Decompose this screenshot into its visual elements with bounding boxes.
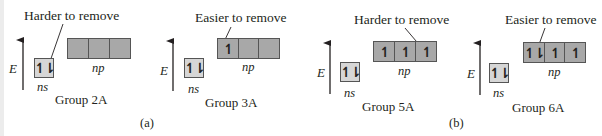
np-label-3a: np (242, 61, 255, 74)
energy-axis-label: E (9, 62, 17, 75)
callout-text-5a: Harder to remove (354, 13, 449, 27)
callout-text-6a: Easier to remove (505, 13, 596, 27)
panel-label-a: (a) (140, 117, 154, 130)
np-cell: ↿ (218, 39, 239, 58)
ns-label-3a: ns (188, 83, 199, 96)
np-cell (110, 39, 130, 58)
np-cell: ↿ (565, 43, 585, 62)
ns-orbital-6a: ↿⇂ (489, 63, 509, 83)
panel-label-b: (b) (449, 117, 464, 130)
ns-orbital-3a: ↿⇂ (184, 58, 204, 78)
ns-label-2a: ns (37, 81, 48, 94)
np-orbital-3a: ↿ (217, 38, 280, 59)
np-cell (239, 39, 260, 58)
group-label-2a: Group 2A (55, 93, 107, 106)
np-label-6a: np (548, 66, 561, 79)
ns-orbital-2a: ↿⇂ (34, 58, 54, 78)
np-orbital-6a: ↿⇂ ↿ ↿ (523, 42, 586, 63)
np-cell: ↿ (416, 42, 436, 61)
np-cell: ↿ (545, 43, 566, 62)
group-label-3a: Group 3A (205, 96, 257, 109)
np-cell (89, 39, 110, 58)
orbital-diagram: Harder to remove E ↿⇂ ns np Group 2A Eas… (0, 0, 602, 136)
np-label-2a: np (92, 62, 105, 75)
ns-orbital-5a: ↿⇂ (340, 62, 360, 82)
np-cell (68, 39, 89, 58)
group-label-5a: Group 5A (362, 100, 414, 113)
np-label-5a: np (398, 65, 411, 78)
np-cell: ↿ (395, 42, 416, 61)
np-cell: ↿ (374, 42, 395, 61)
energy-axis-label: E (467, 67, 475, 80)
np-orbital-2a (67, 38, 131, 59)
callout-text-3a: Easier to remove (195, 11, 286, 25)
np-orbital-5a: ↿ ↿ ↿ (373, 41, 437, 62)
callout-text-2a: Harder to remove (24, 9, 119, 23)
ns-label-5a: ns (344, 87, 355, 100)
np-cell (259, 39, 279, 58)
np-cell: ↿⇂ (524, 43, 545, 62)
energy-axis-label: E (317, 66, 325, 79)
ns-label-6a: ns (493, 87, 504, 100)
energy-axis-label: E (160, 64, 168, 77)
page-edge-shading (0, 0, 4, 136)
group-label-6a: Group 6A (512, 101, 564, 114)
